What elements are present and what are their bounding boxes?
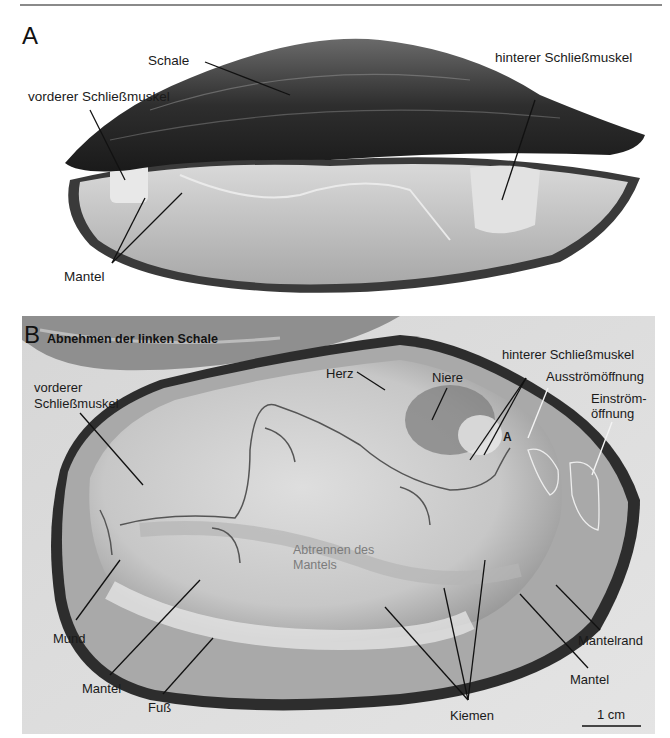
- label-hinterer-schliessmuskel-a: hinterer Schließmuskel: [495, 50, 632, 65]
- panel-b-title: Abnehmen der linken Schale: [47, 332, 218, 346]
- label-vorderer-schliessmuskel-a: vorderer Schließmuskel: [28, 89, 170, 104]
- label-mantel-a: Mantel: [64, 269, 105, 284]
- label-hinterer-schliessmuskel-b: hinterer Schließmuskel: [502, 347, 634, 362]
- mantle-inner-a: [79, 164, 628, 284]
- label-ausstroemoeffnung: Ausströmöffnung: [546, 369, 644, 384]
- label-einstroem-2: öffnung: [591, 406, 634, 421]
- label-schale: Schale: [148, 53, 189, 68]
- panel-b-letter: B: [24, 321, 40, 348]
- panel-a-letter: A: [22, 22, 38, 49]
- label-vorderer-b-2: Schließmuskel: [34, 396, 119, 411]
- cut-start-marker-a: A: [503, 430, 512, 444]
- scale-bar-label: 1 cm: [597, 707, 625, 722]
- label-vorderer-b-1: vorderer: [34, 380, 83, 395]
- mussel-anatomy-figure: A Schale hinterer Schließmuskel vorderer…: [0, 0, 670, 738]
- label-fuss: Fuß: [148, 700, 171, 715]
- label-niere: Niere: [432, 370, 463, 385]
- label-mantelrand: Mantelrand: [578, 633, 643, 648]
- label-mund: Mund: [53, 631, 86, 646]
- label-kiemen: Kiemen: [450, 708, 494, 723]
- label-einstroem-1: Einström-: [591, 391, 647, 406]
- posterior-adductor-a: [470, 165, 540, 233]
- label-mantel-b-left: Mantel: [82, 681, 121, 696]
- label-abtrennen-2: Mantels: [293, 558, 337, 572]
- label-abtrennen-1: Abtrennen des: [293, 543, 374, 557]
- label-mantel-b-right: Mantel: [570, 672, 609, 687]
- label-herz: Herz: [326, 366, 353, 381]
